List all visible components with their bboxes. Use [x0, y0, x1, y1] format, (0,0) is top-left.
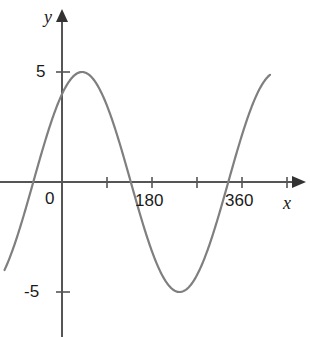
- y-tick-label-5: 5: [36, 63, 45, 80]
- x-axis-label: x: [283, 194, 291, 212]
- x-axis: [0, 176, 306, 188]
- x-tick-label-360: 360: [225, 192, 253, 209]
- x-tick-label-0: 0: [45, 190, 54, 207]
- x-tick-label-180: 180: [135, 192, 163, 209]
- chart-plot-area: [0, 0, 310, 337]
- y-axis-arrowhead: [56, 9, 68, 22]
- y-axis-label: y: [44, 8, 52, 26]
- y-tick-label-minus5: -5: [24, 283, 39, 300]
- x-axis-arrowhead: [292, 176, 306, 188]
- y-axis: [56, 9, 68, 337]
- sine-curve-chart: y x 5 -5 0 180 360: [0, 0, 310, 337]
